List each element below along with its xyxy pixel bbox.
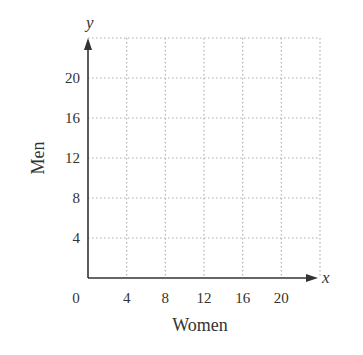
x-tick-label: 20 <box>274 290 289 306</box>
y-axis-title: Men <box>28 142 48 175</box>
x-tick-labels: 48121620 <box>123 290 289 306</box>
x-axis-symbol: x <box>321 268 330 287</box>
x-tick-label: 12 <box>197 290 212 306</box>
axes <box>84 38 318 282</box>
x-tick-label: 4 <box>123 290 131 306</box>
y-tick-label: 20 <box>65 70 80 86</box>
y-tick-labels: 48121620 <box>65 70 81 246</box>
x-tick-label: 16 <box>235 290 251 306</box>
x-axis-title: Women <box>172 315 228 335</box>
y-tick-label: 8 <box>73 190 81 206</box>
y-tick-label: 4 <box>73 230 81 246</box>
origin-label: 0 <box>72 290 80 306</box>
x-tick-label: 8 <box>162 290 170 306</box>
y-tick-label: 16 <box>65 110 81 126</box>
y-tick-label: 12 <box>65 150 80 166</box>
y-axis-symbol: y <box>84 13 94 32</box>
grid-lines <box>88 38 320 278</box>
x-axis-arrow-icon <box>306 274 318 282</box>
y-axis-arrow-icon <box>84 38 92 50</box>
coordinate-grid-chart: y x 0 Women Men 48121620 48121620 <box>0 0 363 355</box>
